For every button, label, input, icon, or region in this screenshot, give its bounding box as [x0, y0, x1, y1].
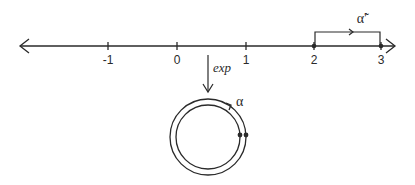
circle-loop: [170, 99, 246, 175]
number-line: [20, 39, 395, 53]
exp-map-label: exp: [213, 60, 232, 75]
lifted-path-label: α̃′: [357, 11, 369, 26]
endpoint-dot-2: [312, 44, 317, 49]
lifted-path: [315, 29, 380, 46]
diagram-canvas: -1 0 1 2 3 α̃′ exp α: [0, 0, 415, 185]
loop-label: α: [236, 94, 244, 109]
tick-label-3: 3: [378, 53, 385, 67]
tick-label-minus-1: -1: [103, 53, 114, 67]
exp-map-arrow: [203, 55, 213, 92]
tick-label-1: 1: [243, 53, 250, 67]
base-point-dot-inner: [238, 133, 243, 138]
tick-label-2: 2: [311, 53, 318, 67]
base-point-dot-outer: [244, 133, 249, 138]
tick-label-0: 0: [174, 53, 181, 67]
endpoint-dot-3: [379, 44, 384, 49]
